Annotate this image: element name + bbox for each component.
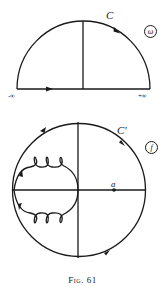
f-plane-badge: f: [145, 141, 158, 154]
point-a-label: a: [111, 180, 116, 189]
upper-diagram: [17, 21, 150, 89]
contour-c-label: C: [106, 10, 113, 21]
upper-loop-curve: [14, 157, 78, 190]
lower-loop-curve: [14, 190, 78, 223]
plus-infinity-label: +∞: [138, 93, 146, 100]
caption-number: 61: [87, 275, 97, 285]
omega-plane-badge: ω: [144, 25, 157, 38]
contour-c-prime-label: C': [117, 125, 127, 136]
caption-prefix: Fig.: [68, 275, 84, 285]
lower-diagram: [13, 122, 146, 258]
figure-caption: Fig. 61: [0, 275, 165, 285]
minus-infinity-label: -∞: [8, 93, 14, 100]
arrow-icon: [18, 127, 125, 256]
figure-canvas: [0, 0, 165, 288]
